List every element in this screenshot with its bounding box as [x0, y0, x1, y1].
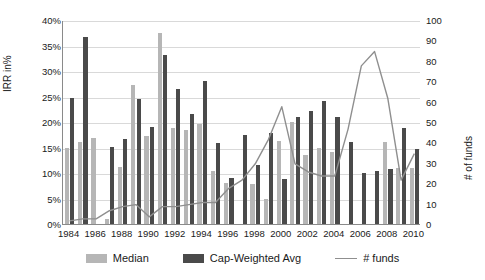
chart-legend: MedianCap-Weighted Avg# funds — [0, 252, 485, 264]
y-axis-tick-label: 40% — [23, 16, 61, 26]
legend-item[interactable]: # funds — [335, 252, 399, 264]
y-axis-tick-label: 10% — [23, 169, 61, 179]
y2-axis-tick-label: 100 — [426, 16, 460, 26]
y2-axis-tick-label: 90 — [426, 36, 460, 46]
y-axis-tick-label: 35% — [23, 42, 61, 52]
legend-label: # funds — [363, 252, 399, 264]
y2-axis-tick-label: 0 — [426, 220, 460, 230]
plot-area — [62, 21, 420, 225]
legend-label: Median — [113, 252, 149, 264]
y2-axis-tick-label: 60 — [426, 98, 460, 108]
line-swatch-icon — [335, 254, 357, 263]
y-axis-tick-label: 20% — [23, 118, 61, 128]
y2-axis-title: # of funds — [463, 136, 474, 180]
y-axis-tick-label: 30% — [23, 67, 61, 77]
y-axis-tick-label: 25% — [23, 93, 61, 103]
funds-line-layer — [63, 21, 420, 224]
y2-axis-tick-label: 70 — [426, 77, 460, 87]
legend-label: Cap-Weighted Avg — [210, 252, 301, 264]
y-axis-title: IRR in% — [2, 55, 13, 92]
legend-item[interactable]: Median — [86, 252, 149, 264]
y2-axis-tick-label: 10 — [426, 200, 460, 210]
legend-item[interactable]: Cap-Weighted Avg — [183, 252, 301, 264]
y2-axis-tick-label: 30 — [426, 159, 460, 169]
y2-axis-tick-label: 20 — [426, 179, 460, 189]
y-axis-tick-label: 5% — [23, 195, 61, 205]
x-axis-tick-label: 2010 — [396, 228, 430, 239]
y2-axis-tick-label: 80 — [426, 57, 460, 67]
y2-axis-tick-label: 50 — [426, 118, 460, 128]
y-axis-tick-label: 15% — [23, 144, 61, 154]
gridline — [63, 225, 420, 226]
funds-line-svg — [63, 21, 421, 225]
funds-line-path — [70, 52, 415, 221]
capwtd-swatch-icon — [183, 254, 204, 263]
y2-axis-tick-label: 40 — [426, 138, 460, 148]
irr-fund-chart: IRR in% # of funds 0%5%10%15%20%25%30%35… — [0, 0, 485, 280]
median-swatch-icon — [86, 254, 107, 263]
